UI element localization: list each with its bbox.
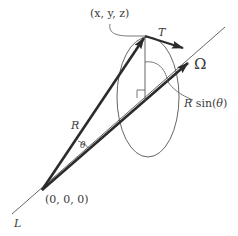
theta-label: θ (80, 141, 85, 150)
r-sin-theta-close: ) (223, 97, 227, 110)
point-leader-curve (110, 24, 145, 36)
rotation-diagram: (x, y, z) T Ω R sin(θ) R θ (0, 0, 0) L (0, 0, 238, 236)
diagram-canvas (0, 0, 238, 236)
line-L-label: L (14, 218, 21, 229)
point-label: (x, y, z) (90, 8, 129, 19)
right-angle-marker (137, 90, 145, 98)
origin-label: (0, 0, 0) (45, 194, 89, 205)
r-sin-theta-sin: sin( (192, 97, 216, 110)
r-sin-theta-label: R sin(θ) (184, 98, 227, 109)
radius-label: R (71, 120, 79, 131)
omega-label: Ω (194, 57, 206, 72)
r-sin-theta-theta: θ (216, 97, 223, 110)
tangent-label: T (158, 27, 165, 38)
rsin-leader-arc (145, 62, 168, 82)
